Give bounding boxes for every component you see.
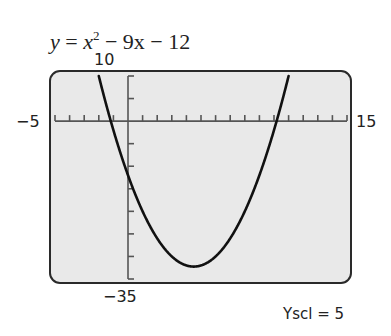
yscl-label: Yscl = 5 bbox=[283, 305, 344, 323]
xmax-label: 15 bbox=[356, 112, 376, 131]
graph-screen bbox=[0, 0, 391, 336]
ymax-label: 10 bbox=[94, 50, 114, 69]
ymin-label: −35 bbox=[103, 287, 137, 306]
calculator-screen-frame bbox=[50, 71, 351, 283]
xmin-label: −5 bbox=[16, 112, 40, 131]
